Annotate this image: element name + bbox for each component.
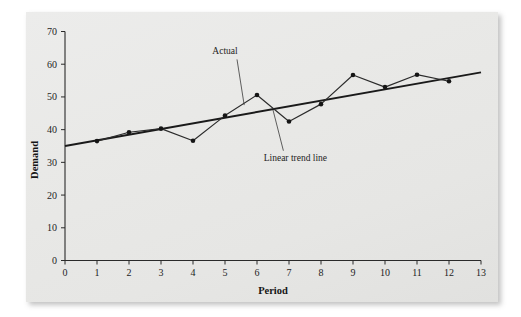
data-point-period-8 — [319, 102, 324, 107]
x-tick-label-9: 9 — [351, 267, 356, 278]
chart-plot-area: 010203040506070 012345678910111213 Actua… — [0, 0, 521, 317]
data-point-period-7 — [287, 119, 292, 124]
x-tick-label-13: 13 — [476, 267, 486, 278]
data-point-period-4 — [191, 138, 196, 143]
data-point-period-2 — [127, 130, 132, 135]
figure-container: 010203040506070 012345678910111213 Actua… — [0, 0, 521, 317]
data-point-period-11 — [415, 72, 420, 77]
x-tick-label-11: 11 — [412, 267, 422, 278]
y-tick-label-10: 10 — [47, 222, 57, 233]
y-tick-label-70: 70 — [47, 26, 57, 37]
y-tick-label-0: 0 — [52, 255, 57, 266]
y-tick-label-60: 60 — [47, 59, 57, 70]
annotation-label-1: Actual — [212, 46, 238, 56]
axis-lines — [65, 32, 481, 261]
annotation-leader-1 — [237, 59, 244, 105]
y-axis-title: Demand — [29, 141, 40, 179]
x-tick-label-6: 6 — [255, 267, 260, 278]
x-tick-label-10: 10 — [380, 267, 390, 278]
x-tick-label-8: 8 — [319, 267, 324, 278]
data-point-period-5 — [223, 113, 228, 118]
x-tick-label-0: 0 — [63, 267, 68, 278]
x-tick-label-1: 1 — [95, 267, 100, 278]
x-tick-label-12: 12 — [444, 267, 454, 278]
data-point-period-6 — [255, 93, 260, 98]
x-axis-title: Period — [258, 285, 288, 296]
annotation-label-2: Linear trend line — [264, 153, 327, 163]
y-tick-label-20: 20 — [47, 190, 57, 201]
x-tick-label-3: 3 — [159, 267, 164, 278]
data-point-period-12 — [447, 79, 452, 84]
data-point-period-1 — [95, 139, 100, 144]
data-point-period-10 — [383, 85, 388, 90]
y-tick-label-40: 40 — [47, 124, 57, 135]
x-axis-ticks: 012345678910111213 — [63, 261, 487, 278]
data-point-period-9 — [351, 73, 356, 78]
x-tick-label-2: 2 — [127, 267, 132, 278]
linear-trend-line — [65, 72, 481, 146]
x-tick-label-5: 5 — [223, 267, 228, 278]
y-axis-ticks: 010203040506070 — [47, 26, 65, 266]
x-tick-label-4: 4 — [191, 267, 196, 278]
y-tick-label-30: 30 — [47, 157, 57, 168]
y-tick-label-50: 50 — [47, 91, 57, 102]
annotation-layer: ActualLinear trend line — [212, 46, 327, 162]
data-point-period-3 — [159, 126, 164, 131]
x-tick-label-7: 7 — [287, 267, 292, 278]
data-layer — [65, 72, 481, 146]
